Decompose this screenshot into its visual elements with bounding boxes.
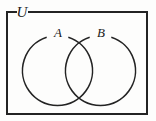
set-a-label: A — [53, 25, 62, 40]
set-b-circle — [65, 37, 135, 105]
venn-diagram-canvas: U A B — [0, 0, 156, 121]
set-a-circle — [22, 37, 92, 105]
set-b-label: B — [97, 25, 105, 40]
universal-set-label: U — [17, 4, 29, 20]
venn-diagram-figure: U A B — [0, 0, 156, 121]
universal-set-border — [7, 12, 147, 114]
